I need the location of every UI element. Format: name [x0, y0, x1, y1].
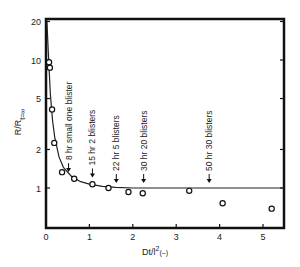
- y-tick-label: 5: [36, 94, 41, 104]
- svg-text:R/Rt=∞: R/Rt=∞: [13, 109, 26, 136]
- annotations: 8 hr small one blister15 hr 2 blisters22…: [64, 82, 215, 183]
- annotation: 15 hr 2 blisters: [87, 110, 97, 178]
- y-axis-label-main: R/R: [13, 119, 23, 135]
- data-point: [52, 140, 57, 145]
- annotation-label: 50 hr 30 blisters: [204, 111, 214, 171]
- data-point: [106, 185, 111, 190]
- x-axis-label-main: Dt/l: [142, 247, 156, 257]
- x-tick-label: 1: [87, 232, 92, 242]
- annotation: 50 hr 30 blisters: [204, 111, 214, 183]
- y-tick-label: 10: [31, 56, 41, 66]
- annotation-label: 30 hr 20 blisters: [139, 111, 149, 171]
- data-point: [126, 189, 131, 194]
- data-point: [72, 176, 77, 181]
- arrow-head-icon: [90, 173, 95, 177]
- data-point: [49, 107, 54, 112]
- svg-text:Dt/l2(–): Dt/l2(–): [142, 245, 168, 257]
- data-point: [59, 170, 64, 175]
- x-axis-label: Dt/l2(–): [142, 245, 168, 257]
- annotation-label: 15 hr 2 blisters: [87, 110, 97, 166]
- x-tick-label: 0: [43, 232, 48, 242]
- y-tick-label: 20: [31, 17, 41, 27]
- y-tick-label: 2: [36, 145, 41, 155]
- y-tick-label: 1: [36, 184, 41, 194]
- annotation: 22 hr 5 blisters: [111, 115, 121, 183]
- chart: 1251020 012345 8 hr small one blister15 …: [0, 0, 300, 267]
- annotation-label: 22 hr 5 blisters: [111, 115, 121, 171]
- data-point: [187, 188, 192, 193]
- annotation-label: 8 hr small one blister: [64, 82, 74, 161]
- plot-frame: [46, 19, 284, 228]
- data-point: [140, 191, 145, 196]
- data-point: [47, 65, 52, 70]
- arrow-head-icon: [114, 179, 119, 183]
- x-tick-label: 4: [217, 232, 222, 242]
- y-axis-label-sub: t=∞: [19, 109, 26, 120]
- x-tick-label: 5: [260, 232, 265, 242]
- annotation: 8 hr small one blister: [64, 82, 74, 173]
- annotation: 30 hr 20 blisters: [139, 111, 149, 183]
- arrow-head-icon: [207, 179, 212, 183]
- x-axis-label-unit: (–): [159, 249, 168, 257]
- fitted-curve-line: [47, 22, 284, 189]
- x-tick-label: 2: [130, 232, 135, 242]
- data-point: [269, 206, 274, 211]
- data-point: [90, 182, 95, 187]
- y-axis-label: R/Rt=∞: [13, 109, 26, 136]
- arrow-head-icon: [141, 179, 146, 183]
- x-tick-label: 3: [174, 232, 179, 242]
- data-point: [220, 201, 225, 206]
- x-axis-ticks: 012345: [43, 224, 265, 242]
- data-point: [46, 60, 51, 65]
- fitted-curve: [47, 22, 284, 189]
